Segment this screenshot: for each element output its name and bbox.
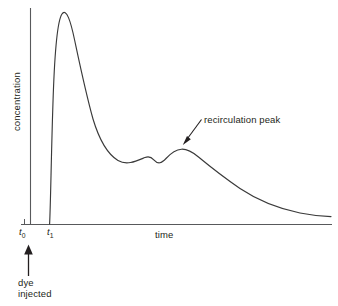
x-tick-label-t0: t0	[19, 226, 25, 240]
dilution-curve	[50, 12, 331, 224]
x-axis-label: time	[155, 229, 174, 240]
chart-canvas	[0, 0, 338, 306]
recirculation-arrow-icon	[183, 120, 202, 146]
dye-injection-line-2: injected	[18, 288, 52, 299]
dye-dilution-figure: concentration time t0 t1 recirculation p…	[0, 0, 338, 306]
dye-injection-line-1: dye	[18, 277, 52, 288]
dye-injection-annotation: dye injected	[18, 277, 52, 299]
t1-subscript: 1	[50, 232, 54, 239]
recirculation-peak-annotation: recirculation peak	[204, 114, 280, 125]
x-tick-label-t1: t1	[47, 226, 53, 240]
t0-subscript: 0	[22, 232, 26, 239]
y-axis-label: concentration	[11, 47, 22, 157]
injection-arrow-icon	[24, 245, 33, 277]
